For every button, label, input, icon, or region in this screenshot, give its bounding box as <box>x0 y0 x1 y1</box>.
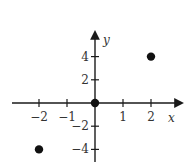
data-point <box>91 99 99 107</box>
y-tick-label: 4 <box>81 50 89 64</box>
y-axis-label: y <box>102 33 110 47</box>
x-tick-label: 2 <box>147 110 155 124</box>
coordinate-plane: −2−11242−2−4 x y <box>0 0 193 164</box>
data-point <box>35 145 43 153</box>
axes <box>12 32 182 162</box>
x-tick-label: 1 <box>119 110 127 124</box>
y-tick-label: −4 <box>71 142 89 156</box>
x-axis-label: x <box>168 111 175 125</box>
y-tick-label: −2 <box>71 119 89 133</box>
data-point <box>147 52 155 60</box>
y-tick-label: 2 <box>81 73 89 87</box>
x-tick-label: −2 <box>30 110 48 124</box>
